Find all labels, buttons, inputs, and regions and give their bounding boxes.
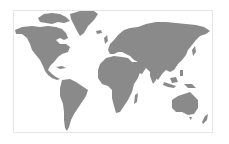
iceland [96,30,102,34]
uk [104,35,108,44]
philippines [180,70,183,76]
world-map [0,0,229,144]
australia [172,92,198,115]
caribbean-islands [56,66,66,69]
tasmania [189,117,192,120]
new-zealand [202,114,208,124]
south-america [60,79,88,131]
madagascar [134,93,138,104]
new-guinea [184,84,196,88]
japan [192,46,196,56]
indonesia [163,82,176,88]
north-america [15,26,70,80]
arctic-islands [38,13,70,24]
greenland [70,11,98,36]
borneo [170,77,178,83]
